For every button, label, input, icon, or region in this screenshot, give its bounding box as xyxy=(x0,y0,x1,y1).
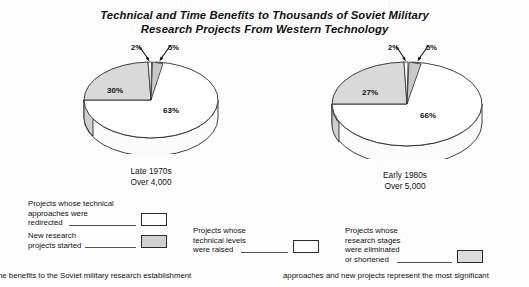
legend-line: or shortened xyxy=(345,255,400,265)
legend-line: Projects whose xyxy=(345,226,400,236)
legend-line: projects started xyxy=(28,241,81,251)
right-caption-line1: Early 1980s xyxy=(330,170,480,181)
legend-leader-line xyxy=(69,225,136,226)
body-text-left-column: he benefits to the Soviet military resea… xyxy=(0,271,191,281)
legend-label-new-projects: New research projects started xyxy=(28,231,81,250)
legend-item-levels-raised[interactable]: Projects whose technical levels were rai… xyxy=(193,226,338,258)
legend-label-stages-eliminated: Projects whose research stages were elim… xyxy=(345,226,400,264)
legend-label-levels-raised: Projects whose technical levels were rai… xyxy=(193,226,246,255)
right-slice-27 xyxy=(332,62,407,104)
left-caption-line1: Late 1970s xyxy=(84,166,218,177)
right-callout-arrowhead-2 xyxy=(402,57,406,62)
body-text-right-column: approaches and new projects represent th… xyxy=(283,271,489,281)
right-label-5: 5% xyxy=(426,43,437,52)
legend-line: Projects whose technical xyxy=(28,199,114,209)
legend-item-new-projects[interactable]: New research projects started xyxy=(28,231,168,257)
legend-line: research stages xyxy=(345,236,400,246)
left-label-2: 2% xyxy=(131,43,142,52)
right-label-2: 2% xyxy=(388,43,399,52)
legend-line: were eliminated xyxy=(345,245,400,255)
legend-line: New research xyxy=(28,231,81,241)
legend-line: approaches were xyxy=(28,209,114,219)
left-caption-line2: Over 4,000 xyxy=(84,177,218,188)
legend-line: Projects whose xyxy=(193,226,246,236)
page-title-line1: Technical and Time Benefits to Thousands… xyxy=(100,9,429,21)
legend-leader-line xyxy=(85,247,136,248)
right-label-27: 27% xyxy=(362,88,378,97)
right-callout-arrowhead-5 xyxy=(417,57,421,62)
legend-item-stages-eliminated[interactable]: Projects whose research stages were elim… xyxy=(345,226,505,268)
left-callout-arrowhead-2 xyxy=(146,57,150,62)
legend-leader-line xyxy=(241,252,288,253)
chart-page: Technical and Time Benefits to Thousands… xyxy=(0,0,529,287)
left-label-5: 5% xyxy=(168,43,179,52)
page-title-line2: Research Projects From Western Technolog… xyxy=(0,22,529,36)
page-title: Technical and Time Benefits to Thousands… xyxy=(0,8,529,36)
legend-line: technical levels xyxy=(193,236,246,246)
right-pie-graphic xyxy=(322,44,507,159)
legend-leader-line xyxy=(397,262,452,263)
legend-swatch-redirected xyxy=(141,213,167,226)
left-label-63: 63% xyxy=(163,106,179,115)
right-label-66: 66% xyxy=(420,111,436,120)
legend-swatch-levels-raised xyxy=(293,240,319,253)
right-caption-line2: Over 5,000 xyxy=(330,181,480,192)
legend-swatch-stages-eliminated xyxy=(457,250,483,263)
legend-item-redirected[interactable]: Projects whose technical approaches were… xyxy=(28,199,168,231)
left-callout-arrowhead-5 xyxy=(159,57,163,62)
legend-swatch-new-projects xyxy=(141,235,167,248)
left-pie-caption: Late 1970s Over 4,000 xyxy=(84,166,218,187)
left-label-30: 30% xyxy=(107,86,123,95)
legend-line: were raised xyxy=(193,245,246,255)
left-pie-graphic xyxy=(60,44,240,154)
legend-label-redirected: Projects whose technical approaches were… xyxy=(28,199,114,228)
right-pie-caption: Early 1980s Over 5,000 xyxy=(330,170,480,191)
legend-line: redirected xyxy=(28,218,114,228)
